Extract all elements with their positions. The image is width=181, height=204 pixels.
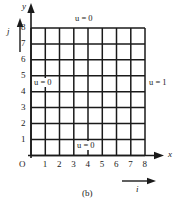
boundary-label-left: u = 0 xyxy=(33,78,53,87)
y-tick-7: 7 xyxy=(21,39,26,48)
origin-label: O xyxy=(19,160,26,169)
boundary-label-bottom: u = 0 xyxy=(76,141,96,150)
i-index-label: i xyxy=(136,185,139,194)
y-tick-8: 8 xyxy=(21,23,26,32)
y-tick-2: 2 xyxy=(21,119,26,128)
x-tick-3: 3 xyxy=(71,160,76,169)
diagram-canvas xyxy=(0,0,181,204)
x-tick-4: 4 xyxy=(86,160,91,169)
y-tick-6: 6 xyxy=(21,55,26,64)
y-tick-5: 5 xyxy=(21,71,26,80)
x-tick-6: 6 xyxy=(114,160,119,169)
x-tick-1: 1 xyxy=(43,160,48,169)
x-tick-8: 8 xyxy=(143,160,148,169)
y-tick-3: 3 xyxy=(21,103,26,112)
y-tick-4: 4 xyxy=(21,87,26,96)
x-axis-label: x xyxy=(168,150,172,159)
grid-lines xyxy=(31,28,145,156)
j-index-label: j xyxy=(7,27,10,36)
x-tick-2: 2 xyxy=(57,160,62,169)
x-tick-5: 5 xyxy=(100,160,105,169)
x-tick-7: 7 xyxy=(128,160,133,169)
y-axis-label: y xyxy=(22,2,26,11)
y-tick-1: 1 xyxy=(21,135,26,144)
mesh-diagram: y x j i O 8 7 6 5 4 3 2 1 1 2 3 4 5 6 7 … xyxy=(0,0,181,204)
figure-caption: (b) xyxy=(82,189,93,198)
i-index-arrow-icon xyxy=(122,178,156,184)
boundary-label-right: u = 1 xyxy=(148,78,168,87)
boundary-label-top: u = 0 xyxy=(74,14,94,23)
